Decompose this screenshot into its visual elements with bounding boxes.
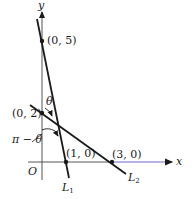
diagram: y x O (0, 5) (0, 2) (1, 0) (3, 0) θ π − … (0, 0, 196, 199)
x-axis-label: x (176, 156, 182, 167)
y-axis-label: y (38, 0, 44, 11)
point-label-0-5: (0, 5) (47, 35, 77, 46)
line-l2-label: L2 (128, 172, 140, 185)
line-l1-label: L1 (62, 182, 74, 195)
point-label-0-2: (0, 2) (12, 108, 42, 119)
origin-label: O (28, 166, 37, 177)
point-label-3-0: (3, 0) (112, 149, 142, 160)
point-label-1-0: (1, 0) (66, 148, 96, 159)
point-0-5 (40, 39, 44, 43)
supplement-label: π − θ (12, 134, 42, 145)
supplement-arc (42, 129, 58, 136)
theta-label: θ (46, 96, 53, 107)
point-1-0 (64, 160, 68, 164)
theta-arc (45, 108, 52, 116)
